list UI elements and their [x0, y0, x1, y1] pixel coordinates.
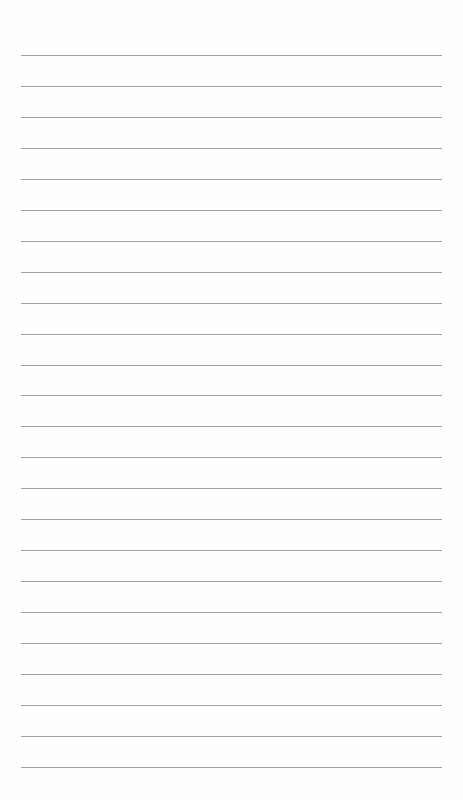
ruled-line	[21, 86, 442, 87]
ruled-line	[21, 303, 442, 304]
ruled-line	[21, 365, 442, 366]
ruled-line	[21, 179, 442, 180]
ruled-line	[21, 705, 442, 706]
ruled-line	[21, 148, 442, 149]
ruled-line	[21, 395, 442, 396]
ruled-line	[21, 643, 442, 644]
ruled-line	[21, 117, 442, 118]
ruled-line	[21, 55, 442, 56]
ruled-line	[21, 488, 442, 489]
ruled-line	[21, 334, 442, 335]
ruled-line	[21, 272, 442, 273]
ruled-line	[21, 550, 442, 551]
ruled-line	[21, 241, 442, 242]
ruled-line	[21, 519, 442, 520]
ruled-line	[21, 581, 442, 582]
ruled-line	[21, 674, 442, 675]
ruled-line	[21, 457, 442, 458]
ruled-line	[21, 612, 442, 613]
ruled-line	[21, 767, 442, 768]
ruled-line	[21, 210, 442, 211]
ruled-line	[21, 736, 442, 737]
lined-paper-page	[0, 0, 463, 800]
ruled-line	[21, 426, 442, 427]
